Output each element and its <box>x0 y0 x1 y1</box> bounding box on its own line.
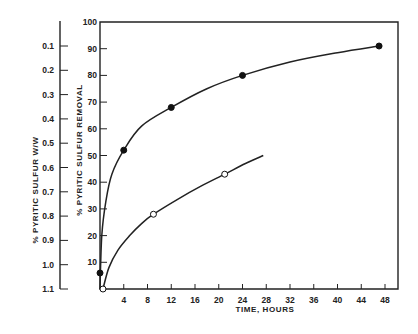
y2-tick-label: 0.8 <box>42 211 54 221</box>
curve-filled-circle <box>100 46 379 289</box>
y-tick-label: 10 <box>88 257 98 267</box>
y-tick-label: 70 <box>88 97 98 107</box>
y2-tick-label: 0.7 <box>42 187 54 197</box>
open-data-point <box>100 286 106 292</box>
x-axis-title: TIME, HOURS <box>235 305 294 314</box>
curve-open-circle <box>103 156 263 290</box>
y2-tick-label: 0.2 <box>42 65 54 75</box>
x-tick-label: 12 <box>167 295 177 305</box>
open-data-point <box>150 211 156 217</box>
filled-data-point <box>121 147 127 153</box>
y2-tick-label: 0.3 <box>42 90 54 100</box>
x-tick-label: 16 <box>190 295 200 305</box>
y-axis-title: % PYRITIC SULFUR REMOVAL <box>75 84 84 216</box>
y2-tick-label: 0.4 <box>42 114 54 124</box>
x-tick-label: 32 <box>285 295 295 305</box>
x-tick-label: 4 <box>121 295 126 305</box>
y-tick-label: 100 <box>83 17 97 27</box>
y-tick-label: 30 <box>88 204 98 214</box>
chart: 0.10.20.30.40.50.60.70.80.91.01.1 102030… <box>0 0 418 334</box>
x-tick-label: 48 <box>380 295 390 305</box>
data-markers <box>97 43 382 292</box>
y-tick-label: 80 <box>88 70 98 80</box>
x-tick-label: 44 <box>357 295 367 305</box>
x-tick-label: 40 <box>333 295 343 305</box>
filled-data-point <box>168 104 174 110</box>
x-tick-label: 36 <box>309 295 319 305</box>
y2-tick-label: 1.0 <box>42 260 54 270</box>
open-data-point <box>222 171 228 177</box>
x-tick-label: 24 <box>238 295 248 305</box>
filled-data-point <box>240 72 246 78</box>
y-tick-label: 40 <box>88 177 98 187</box>
y-tick-label: 20 <box>88 231 98 241</box>
y2-tick-label: 0.1 <box>42 41 54 51</box>
y2-tick-label: 1.1 <box>42 284 54 294</box>
x-tick-label: 8 <box>145 295 150 305</box>
x-tick-label: 20 <box>214 295 224 305</box>
primary-y-axis: 102030405060708090100 <box>83 17 107 267</box>
x-axis: 4812162024283236404448 <box>121 284 390 305</box>
y2-tick-label: 0.6 <box>42 163 54 173</box>
y-tick-label: 60 <box>88 124 98 134</box>
filled-data-point <box>97 270 103 276</box>
y-tick-label: 90 <box>88 44 98 54</box>
filled-data-point <box>376 43 382 49</box>
plot-frame <box>100 22 398 289</box>
secondary-y-axis-title: % PYRITIC SULFUR W/W <box>31 136 40 243</box>
y2-tick-label: 0.9 <box>42 235 54 245</box>
data-curves <box>100 46 379 289</box>
secondary-y-axis: 0.10.20.30.40.50.60.70.80.91.01.1 <box>42 21 68 294</box>
y2-tick-label: 0.5 <box>42 138 54 148</box>
x-tick-label: 28 <box>262 295 272 305</box>
y-tick-label: 50 <box>88 151 98 161</box>
plot-border <box>100 22 398 289</box>
